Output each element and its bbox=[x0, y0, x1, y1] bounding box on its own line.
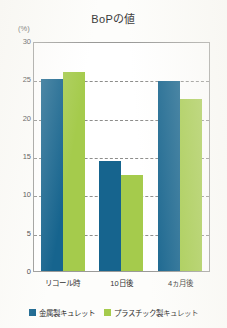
y-tick-label-5: 5 bbox=[5, 230, 31, 238]
chart-title: BoPの値 bbox=[0, 10, 227, 26]
bar-metal-2 bbox=[99, 161, 121, 271]
x-tick-label-3: 4ヵ月後 bbox=[152, 277, 210, 288]
bar-metal-1 bbox=[41, 79, 63, 271]
bar-metal-3 bbox=[158, 81, 180, 271]
legend-label-plastic: プラスチック製キュレット bbox=[114, 307, 198, 318]
legend-item-plastic: プラスチック製キュレット bbox=[104, 307, 198, 318]
legend-swatch-icon-metal bbox=[29, 309, 36, 316]
y-tick-label-15: 15 bbox=[5, 153, 31, 161]
bar-group-1 bbox=[41, 43, 85, 271]
legend-swatch-icon-plastic bbox=[104, 309, 111, 316]
y-tick-label-30: 30 bbox=[5, 38, 31, 46]
legend-item-metal: 金属製キュレット bbox=[29, 307, 95, 318]
bar-group-2 bbox=[99, 43, 143, 271]
y-axis-tick-labels: 302520151050 bbox=[0, 42, 31, 272]
chart-legend: 金属製キュレットプラスチック製キュレット bbox=[0, 307, 227, 318]
x-tick-label-1: リコール時 bbox=[34, 277, 92, 288]
x-tick-label-2: 10日後 bbox=[93, 277, 151, 288]
bar-plastic-3 bbox=[180, 99, 202, 271]
bar-group-3 bbox=[158, 43, 202, 271]
bar-plastic-2 bbox=[121, 175, 143, 271]
x-axis-tick-labels: リコール時10日後4ヵ月後 bbox=[33, 277, 210, 288]
y-tick-label-25: 25 bbox=[5, 76, 31, 84]
y-tick-label-10: 10 bbox=[5, 191, 31, 199]
bars-layer bbox=[34, 43, 209, 271]
y-axis-unit-label: (%) bbox=[18, 24, 30, 33]
y-tick-label-0: 0 bbox=[5, 268, 31, 276]
bop-bar-chart-figure: BoPの値 (%) 302520151050 リコール時10日後4ヵ月後 金属製… bbox=[0, 0, 227, 328]
bar-plastic-1 bbox=[63, 72, 85, 271]
plot-area bbox=[33, 42, 210, 272]
y-tick-label-20: 20 bbox=[5, 115, 31, 123]
legend-label-metal: 金属製キュレット bbox=[39, 307, 95, 318]
